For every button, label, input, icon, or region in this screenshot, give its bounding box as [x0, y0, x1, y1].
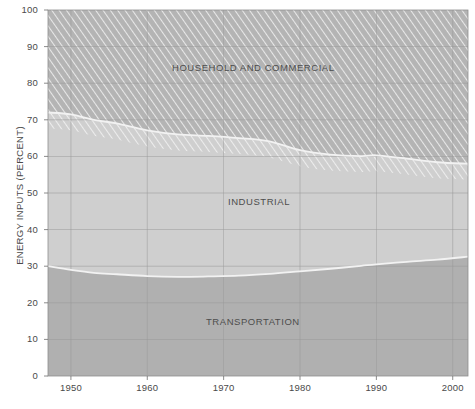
- series-label-transportation: TRANSPORTATION: [206, 316, 300, 327]
- series-label-household-and-commercial: HOUSEHOLD AND COMMERCIAL: [172, 62, 335, 73]
- chart-figure: ENERGY INPUTS (PERCENT) 0102030405060708…: [0, 0, 475, 409]
- series-label-industrial: INDUSTRIAL: [228, 196, 290, 207]
